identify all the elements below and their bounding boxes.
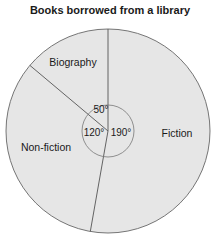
angle-label-fiction: 190°	[111, 127, 132, 138]
pie-chart: Fiction Non-fiction Biography 190° 120° …	[0, 0, 220, 249]
slice-label-biography: Biography	[49, 56, 97, 68]
angle-label-non-fiction: 120°	[84, 127, 105, 138]
angle-label-biography: 50°	[93, 104, 108, 115]
slice-label-non-fiction: Non-fiction	[21, 141, 71, 153]
slice-label-fiction: Fiction	[162, 127, 193, 139]
